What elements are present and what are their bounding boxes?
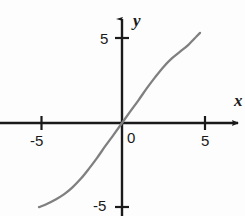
plotted-curve — [39, 33, 200, 207]
plot-canvas — [0, 0, 245, 216]
origin-label: 0 — [127, 130, 135, 145]
x-axis-label: x — [234, 92, 243, 109]
x-tick-label-negative-five: -5 — [30, 133, 43, 148]
y-tick-label-negative-five: -5 — [93, 198, 106, 213]
graph-figure: y x 5 -5 -5 5 0 — [0, 0, 245, 216]
y-tick-label-positive-five: 5 — [100, 31, 108, 46]
x-tick-label-positive-five: 5 — [201, 133, 209, 148]
y-axis-label: y — [133, 12, 141, 29]
